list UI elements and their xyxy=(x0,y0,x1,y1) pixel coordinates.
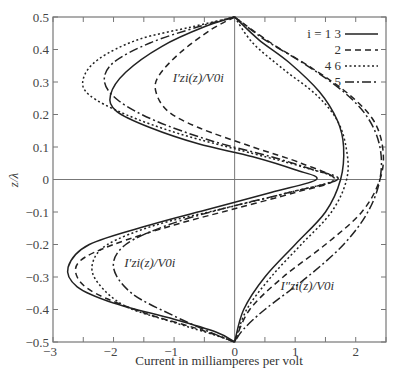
curve-annotation-0: I′zi(z)/V0i xyxy=(172,70,225,85)
y-tick-label: −0.1 xyxy=(25,205,49,220)
line-chart: 0.50.40.30.20.10−0.1−0.2−0.3−0.4−0.5 −3−… xyxy=(0,0,396,377)
y-tick-label: −0.4 xyxy=(25,302,49,317)
curve-annotation-2: I″zi(z)/V0i xyxy=(279,278,334,293)
y-tick-label: 0 xyxy=(43,172,50,187)
y-tick-label: 0.3 xyxy=(33,75,49,90)
x-axis-title: Current in milliamperes per volt xyxy=(135,353,303,368)
x-tick-label: −3 xyxy=(43,344,57,359)
y-tick-label: 0.1 xyxy=(33,140,49,155)
legend-label: 2 xyxy=(335,42,342,57)
x-tick-label: −2 xyxy=(104,344,118,359)
curve-annotations: I′zi(z)/V0iI′zi(z)/V0iI″zi(z)/V0i xyxy=(123,70,334,293)
curve-annotation-1: I′zi(z)/V0i xyxy=(123,255,176,270)
svg-text:z/λ: z/λ xyxy=(6,172,21,188)
y-axis-title: z/λ xyxy=(6,172,21,188)
x-tick-label: 2 xyxy=(352,344,359,359)
y-tick-label: −0.2 xyxy=(25,237,49,252)
legend-label: 5 xyxy=(335,74,342,89)
y-tick-label: 0.4 xyxy=(33,42,50,57)
y-tick-labels: 0.50.40.30.20.10−0.1−0.2−0.3−0.4−0.5 xyxy=(25,10,49,350)
y-tick-label: 0.2 xyxy=(33,107,49,122)
legend-label: i = 1 3 xyxy=(307,26,341,41)
y-tick-label: 0.5 xyxy=(33,10,49,25)
legend: i = 1 324 65 xyxy=(307,26,378,89)
legend-label: 4 6 xyxy=(325,58,342,73)
y-tick-label: −0.3 xyxy=(25,270,49,285)
